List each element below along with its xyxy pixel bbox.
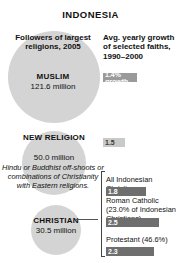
bubble-value-christian: 30.5 million (24, 226, 88, 235)
left-column-caption: Followers of largest religions, 2005 (4, 33, 102, 52)
bubble-label-christian: CHRISTIAN (27, 216, 85, 225)
bubble-value-muslim: 121.6 million (4, 82, 102, 91)
christian-group-bracket (101, 171, 105, 257)
right-column-caption: Avg. yearly growth of selected faiths, 1… (103, 33, 181, 61)
bar-label-protestant: Protestant (46.6%) (106, 236, 181, 245)
infographic-root: INDONESIA Followers of largest religions… (0, 0, 181, 263)
bubble-label-muslim: MUSLIM (4, 72, 102, 81)
bubble-description-new-religion: Hindu or Buddhist off-shoots or combinat… (1, 163, 105, 190)
bar-roman-catholic: 2.5 (106, 218, 159, 227)
bar-all-christians: 1.8 (106, 187, 146, 196)
bar-protestant: 2.3 (106, 247, 154, 256)
left-column: Followers of largest religions, 2005 MUS… (0, 0, 100, 263)
bar-muslim-growth: 1.4% growth (103, 73, 137, 82)
bar-new-religion-growth: 1.5 (103, 138, 125, 147)
bubble-label-new-religion: NEW RELIGION (4, 133, 104, 142)
bubble-value-new-religion: 50.0 million (4, 153, 104, 162)
leader-line-christian (76, 219, 98, 220)
right-column: Avg. yearly growth of selected faiths, 1… (101, 0, 181, 263)
